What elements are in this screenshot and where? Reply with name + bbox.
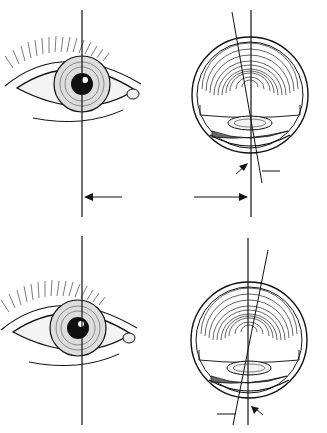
arrow-left-icon (84, 193, 122, 201)
eye-diagram (0, 0, 327, 433)
cross-section-eye-top (192, 10, 308, 217)
front-eye-bottom (1, 236, 137, 425)
arrow-right-icon (194, 193, 248, 201)
pointer-arrow-icon (251, 406, 263, 415)
cross-section-eye-bottom (191, 238, 307, 425)
pointer-arrow-icon (236, 163, 248, 174)
front-eye-top (5, 10, 141, 217)
